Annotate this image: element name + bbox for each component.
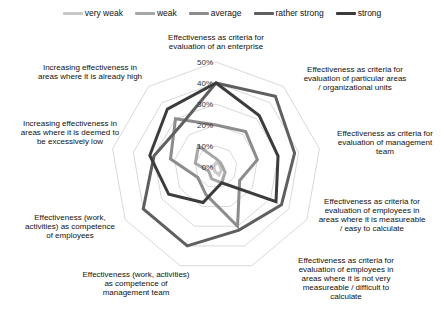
tick-label: 0% [201,163,213,172]
tick-label: 30% [197,100,213,109]
axis-label: Effectiveness (work,activities) as compe… [25,213,115,240]
axis-label: Effectiveness (work, activities)as compe… [83,270,190,297]
tick-label: 20% [197,121,213,130]
series-average [171,119,258,226]
axis-label: Effectiveness as criteria forevaluation … [337,129,433,156]
tick-label: 40% [197,79,213,88]
axis-label: Increasing effectiveness inareas where i… [38,63,142,81]
axis-label: Effectiveness as criteria forevaluation … [319,197,426,233]
tick-label: 50% [197,58,213,67]
axis-labels: Effectiveness as criteria forevaluation … [21,33,433,301]
axis-label: Effectiveness as criteria forevaluation … [304,65,407,92]
axis-label: Effectiveness as criteria forevaluation … [298,256,394,301]
axis-label: Increasing effectiveness inareas where i… [21,119,120,146]
axis-label: Effectiveness as criteria forevaluation … [168,33,264,51]
radar-chart: 0%10%20%30%40%50% Effectiveness as crite… [0,0,444,316]
series-strong [150,83,278,203]
radar-series [143,83,294,246]
tick-label: 10% [197,142,213,151]
